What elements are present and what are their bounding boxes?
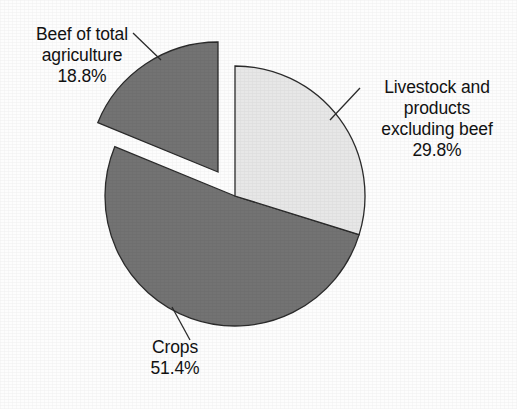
slice-label-crops-value: 51.4% [104, 358, 246, 379]
pie-chart: Beef of total agriculture 18.8% Livestoc… [0, 0, 517, 409]
slice-label-crops: Crops 51.4% [104, 337, 246, 379]
slice-label-livestock-line1: Livestock and [358, 77, 516, 98]
leader-line-livestock [330, 88, 360, 120]
slice-label-livestock-line2: products [358, 98, 516, 119]
slice-label-beef: Beef of total agriculture 18.8% [2, 24, 162, 87]
slice-label-beef-value: 18.8% [2, 66, 162, 87]
slice-label-livestock-value: 29.8% [358, 140, 516, 161]
slice-label-crops-line1: Crops [104, 337, 246, 358]
slice-label-livestock-line3: excluding beef [358, 119, 516, 140]
slice-label-beef-line1: Beef of total [2, 24, 162, 45]
slice-label-livestock: Livestock and products excluding beef 29… [358, 77, 516, 161]
slice-label-beef-line2: agriculture [2, 45, 162, 66]
